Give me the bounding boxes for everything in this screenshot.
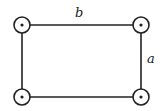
diagram-canvas: b a <box>0 0 165 111</box>
node-top-right <box>133 17 149 33</box>
node-top-left <box>14 17 30 33</box>
node-bottom-left <box>14 89 30 105</box>
label-a: a <box>147 52 155 65</box>
label-b: b <box>75 6 83 19</box>
node-bottom-right <box>133 89 149 105</box>
